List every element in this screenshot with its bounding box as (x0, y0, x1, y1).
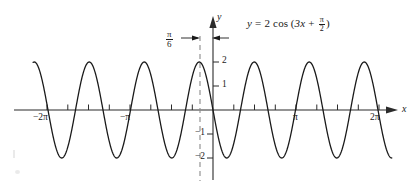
x-tick-label-pi: π (293, 113, 298, 123)
phase-shift-arrows (181, 35, 229, 40)
equation-function: cos (273, 17, 288, 29)
x-tick-label-minus-2pi: −2π (33, 113, 48, 123)
equation-linear-term: 3x (295, 17, 306, 29)
equation-close-paren: ) (326, 17, 330, 29)
y-tick-label-minus-1: −1 (195, 128, 205, 138)
x-axis (14, 106, 398, 113)
cosine-plot (0, 0, 417, 195)
graph-figure: x y −2π −π π 2π 2 1 −1 −2 π 6 y = 2 cos … (0, 0, 417, 195)
equation-label: y = 2 cos (3x + π2) (247, 16, 330, 34)
x-axis-label: x (402, 104, 406, 114)
y-tick-label-minus-2: −2 (195, 152, 205, 162)
y-tick-label-1: 1 (222, 80, 227, 90)
y-axis-label: y (217, 12, 221, 22)
phase-shift-label: π 6 (166, 30, 173, 50)
x-tick-label-minus-pi: −π (120, 113, 130, 123)
equation-phase-fraction: π2 (319, 16, 325, 34)
y-tick-label-2: 2 (222, 56, 227, 66)
equation-phase-denominator: 2 (319, 25, 325, 33)
x-tick-label-2pi: 2π (370, 113, 380, 123)
phase-shift-denominator: 6 (166, 40, 173, 49)
